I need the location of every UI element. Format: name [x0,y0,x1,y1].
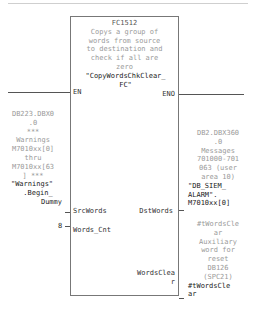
operand-symbol: "DB_SIEM_ ALARM". M7010xx[0] [184,182,252,208]
operand-dst-words[interactable]: DB2.DBX360 .0 Messages 701000-701 063 (u… [184,129,252,208]
operand-comment: *** Warnings M7010xx[0] thru M7010xx[63 … [2,128,64,181]
operand-words-clear[interactable]: #tWordsCle ar Auxiliary word for reset D… [184,220,252,299]
symbol-line: M7010xx[0] [188,199,252,208]
comment-line: Messages [184,147,252,156]
src-wire [65,212,70,213]
pin-words-clear[interactable]: WordsClea r [137,269,175,287]
name-line: "CopyWordsChkClear_ [57,72,194,81]
comment-line: 701000-701 [184,155,252,164]
comment-line: word for [184,246,252,255]
symbol-line: ar [188,290,252,299]
symbol-line: ALARM". [188,191,252,200]
symbol-line: "Warnings" [2,180,62,189]
pin-eno[interactable]: ENO [162,90,175,99]
comment-line: Copys a group of [71,28,178,37]
comment-line: ] *** [2,172,64,181]
cnt-wire [65,226,70,227]
comment-line: thru [2,154,64,163]
block-name: "CopyWordsChkClear_ FC" [57,72,194,90]
dst-wire [179,210,184,211]
en-wire [8,92,70,93]
address-line: .0 [2,119,64,128]
comment-line: M7010xx[63 [2,163,64,172]
operand-comment: #tWordsCle ar Auxiliary word for reset D… [184,220,252,282]
comment-line: area 10) [184,173,252,182]
pin-en[interactable]: EN [73,88,81,97]
block-number: FC1512 [71,19,178,28]
block-comment: Copys a group of words from source to de… [71,28,178,72]
symbol-line: Dummy [2,198,62,207]
operand-words-cnt[interactable]: 8 [58,222,62,231]
operand-address: DB2.DBX360 .0 [184,129,252,147]
pin-label-line: r [137,278,175,287]
comment-line: zero [71,63,178,72]
comment-line: check if all are [71,54,178,63]
comment-line: Auxiliary [184,238,252,247]
comment-line: M7010xx[0] [2,145,64,154]
function-block-fc1512[interactable]: FC1512 Copys a group of words from sourc… [70,16,179,296]
comment-line: (SPC21) [184,273,252,282]
comment-line: 063 (user [184,164,252,173]
operand-comment: Messages 701000-701 063 (user area 10) [184,147,252,182]
symbol-line: "DB_SIEM_ [188,182,252,191]
operand-symbol: "Warnings" .Begin_ Dummy [2,180,64,206]
symbol-line: .Begin_ [2,189,62,198]
pin-dst-words[interactable]: DstWords [139,207,173,216]
comment-line: reset [184,255,252,264]
comment-line: *** [2,128,64,137]
block-header: FC1512 Copys a group of words from sourc… [71,19,178,89]
comment-line: #tWordsCle [184,220,252,229]
comment-line: Warnings [2,136,64,145]
address-line: DB2.DBX360 [184,129,252,138]
comment-line: DB126 [184,264,252,273]
comment-line: ar [184,229,252,238]
operand-symbol: #tWordsCle ar [184,282,252,300]
comment-line: words from source [71,37,178,46]
address-line: .0 [184,138,252,147]
pin-src-words[interactable]: SrcWords [73,207,107,216]
address-line: DB223.DBX0 [2,110,64,119]
network-separator [8,3,248,4]
comment-line: to destination and [71,45,178,54]
pin-label-line: WordsClea [137,269,175,278]
eno-wire [179,94,244,95]
operand-address: DB223.DBX0 .0 [2,110,64,128]
pin-words-cnt[interactable]: Words_Cnt [73,226,111,235]
symbol-line: #tWordsCle [188,282,252,291]
clear-wire [179,298,184,299]
operand-src-words[interactable]: DB223.DBX0 .0 *** Warnings M7010xx[0] th… [2,110,64,207]
